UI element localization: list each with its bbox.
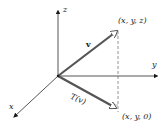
x-axis-label: x	[9, 103, 14, 111]
point-xy0-label: (x, y, 0)	[122, 113, 151, 121]
origin-point	[57, 75, 59, 77]
vector-v	[58, 31, 117, 76]
vector-Tv	[58, 76, 116, 108]
y-axis-label: y	[152, 61, 157, 69]
z-axis-label: z	[63, 6, 67, 14]
point-xyz-label: (x, y, z)	[118, 17, 147, 25]
vector-v-label: v	[86, 40, 91, 48]
projection-diagram: z y x v T(v) (x, y, z) (x, y, 0)	[0, 0, 168, 131]
x-axis	[15, 76, 58, 116]
